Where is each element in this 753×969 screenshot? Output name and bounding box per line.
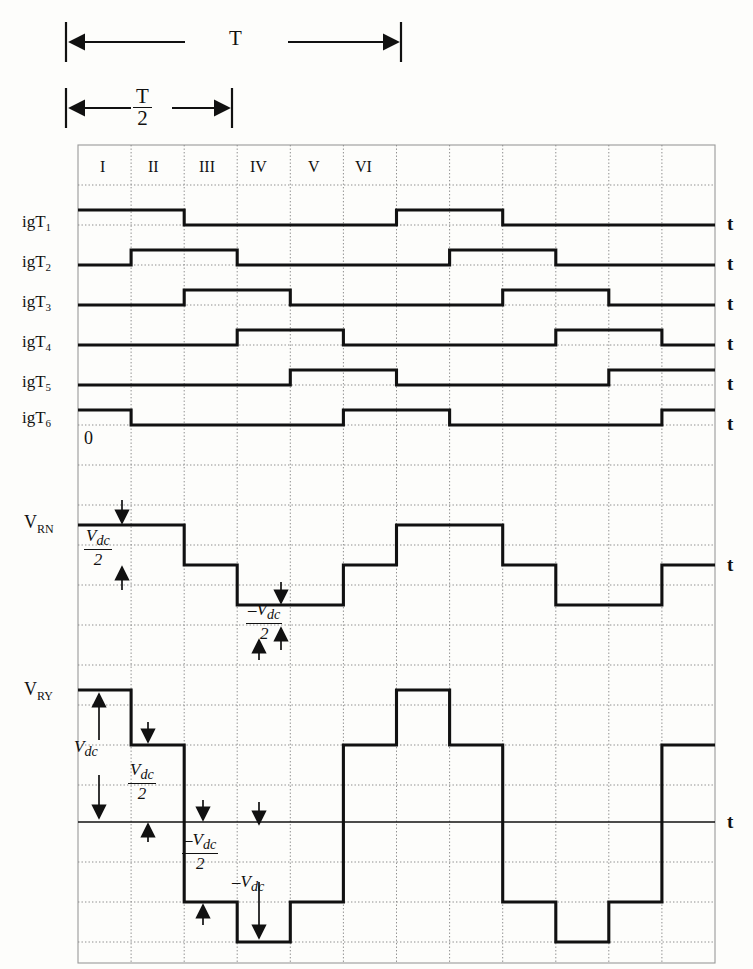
waveform-figure: T T 2 I II III IV V VI igT1 igT2 igT3 ig… bbox=[0, 0, 753, 969]
sector-label-6: VI bbox=[355, 158, 372, 176]
annotation-neg-vdc-over-2-VRY: –Vdc 2 bbox=[182, 830, 218, 874]
signal-label-igT3: igT3 bbox=[22, 292, 51, 313]
signal-label-igT6-sub: 6 bbox=[46, 417, 52, 429]
time-axis-label-igT3: t bbox=[727, 293, 733, 315]
period-label: T bbox=[229, 26, 242, 51]
signal-label-igT3-base: igT bbox=[22, 292, 46, 311]
time-axis-label-VRY: t bbox=[727, 811, 733, 833]
voltage-label-VRN: VRN bbox=[24, 512, 54, 537]
half-period-numerator: T bbox=[133, 86, 152, 108]
signal-label-igT1-base: igT bbox=[22, 212, 46, 231]
sector-label-2: II bbox=[148, 158, 159, 176]
signal-label-igT1-sub: 1 bbox=[46, 221, 52, 233]
voltage-label-VRN-sub: RN bbox=[37, 522, 54, 536]
annotation-vdc-over-2-VRN-den: 2 bbox=[84, 550, 112, 570]
annotation-vdc-over-2-VRY: Vdc 2 bbox=[128, 760, 156, 804]
signal-label-igT4-base: igT bbox=[22, 332, 46, 351]
signal-label-igT6: igT6 bbox=[22, 408, 51, 429]
time-axis-label-igT2: t bbox=[727, 253, 733, 275]
waveform-VRY bbox=[78, 690, 715, 942]
time-axis-label-igT5: t bbox=[727, 373, 733, 395]
signal-label-igT4-sub: 4 bbox=[46, 341, 52, 353]
sector-label-1: I bbox=[100, 158, 105, 176]
time-axis-label-igT4: t bbox=[727, 333, 733, 355]
waveform-igT1 bbox=[78, 210, 715, 225]
signal-label-igT3-sub: 3 bbox=[46, 301, 52, 313]
figure-canvas bbox=[0, 0, 753, 969]
time-axis-label-igT6: t bbox=[727, 413, 733, 435]
signal-label-igT4: igT4 bbox=[22, 332, 51, 353]
voltage-label-VRN-base: V bbox=[24, 512, 37, 532]
annotation-neg-vdc-over-2-VRN-num: –Vdc bbox=[246, 600, 282, 624]
signal-label-igT2: igT2 bbox=[22, 252, 51, 273]
voltage-label-VRY: VRY bbox=[24, 679, 53, 704]
signal-label-igT2-base: igT bbox=[22, 252, 46, 271]
signal-label-igT5: igT5 bbox=[22, 372, 51, 393]
zero-marker: 0 bbox=[84, 428, 93, 449]
sector-label-5: V bbox=[308, 158, 320, 176]
annotation-vdc-VRY-num: V bbox=[74, 737, 84, 756]
time-axis-label-VRN: t bbox=[727, 554, 733, 576]
annotation-neg-vdc-over-2-VRY-num: –Vdc bbox=[182, 830, 218, 854]
annotation-neg-vdc-VRY-num: –V bbox=[232, 872, 251, 891]
annotation-neg-vdc-VRY: –Vdc bbox=[232, 872, 264, 895]
voltage-label-VRY-sub: RY bbox=[37, 689, 53, 703]
signal-label-igT2-sub: 2 bbox=[46, 261, 52, 273]
annotation-neg-vdc-over-2-VRY-den: 2 bbox=[182, 854, 218, 874]
signal-label-igT1: igT1 bbox=[22, 212, 51, 233]
waveform-igT5 bbox=[78, 370, 715, 385]
annotation-neg-vdc-over-2-VRN: –Vdc 2 bbox=[246, 600, 282, 644]
time-axis-label-igT1: t bbox=[727, 213, 733, 235]
sector-label-4: IV bbox=[250, 158, 267, 176]
annotation-vdc-VRY: Vdc bbox=[74, 737, 98, 760]
sector-label-3: III bbox=[199, 158, 215, 176]
annotation-neg-vdc-VRY-sub: dc bbox=[251, 878, 264, 894]
half-period-denominator: 2 bbox=[133, 108, 152, 129]
annotation-vdc-VRY-sub: dc bbox=[84, 743, 97, 759]
signal-label-igT5-base: igT bbox=[22, 372, 46, 391]
signal-label-igT5-sub: 5 bbox=[46, 381, 52, 393]
voltage-label-VRY-base: V bbox=[24, 679, 37, 699]
signal-label-igT6-base: igT bbox=[22, 408, 46, 427]
annotation-vdc-over-2-VRN: Vdc 2 bbox=[84, 526, 112, 570]
annotation-vdc-over-2-VRN-num: Vdc bbox=[84, 526, 112, 550]
annotation-neg-vdc-over-2-VRN-den: 2 bbox=[246, 624, 282, 644]
annotation-vdc-over-2-VRY-den: 2 bbox=[128, 784, 156, 804]
annotation-vdc-over-2-VRY-num: Vdc bbox=[128, 760, 156, 784]
half-period-label: T 2 bbox=[133, 86, 152, 131]
